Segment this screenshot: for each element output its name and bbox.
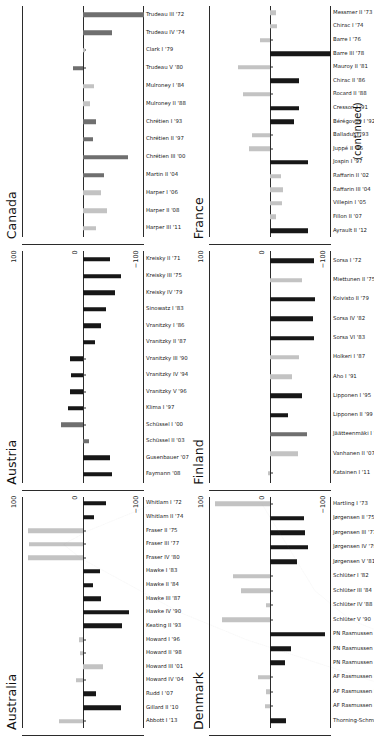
- category-label: Barre III '78: [333, 47, 374, 61]
- category-label: Raffarin III '04: [333, 183, 374, 197]
- category-label: Lipponen I '95: [333, 386, 374, 405]
- value-axis-tick-label: 0: [71, 493, 79, 500]
- category-label-text: Kreisky II '71: [146, 257, 180, 262]
- bar: [83, 173, 104, 178]
- bar-slot: [22, 367, 144, 384]
- category-label: PN Rasmussen IV '98: [333, 656, 374, 670]
- bar-slot: [209, 183, 331, 197]
- category-tick: [83, 424, 86, 425]
- figure-rotator: Australia−1000100Abbott I '13Gillard II …: [0, 0, 374, 736]
- bar-slot: [209, 169, 331, 183]
- bar-slot: [209, 6, 331, 20]
- plot-area: [209, 6, 331, 237]
- category-label-text: Jørgensen IV '79: [333, 545, 374, 550]
- value-axis-tick-label: 100: [197, 493, 205, 508]
- category-label: Jørgensen V '81: [333, 555, 374, 569]
- category-label-text: Hawke IV '90: [146, 610, 181, 615]
- category-label: Sorsa VI '83: [333, 328, 374, 347]
- bar-slot: [209, 497, 331, 511]
- bar-slot: [22, 701, 144, 715]
- bar-slot: [209, 699, 331, 713]
- category-label-text: Villepin I '05: [333, 201, 366, 206]
- bar: [83, 472, 112, 477]
- category-label-text: PN Rasmussen I '93: [333, 631, 374, 636]
- category-label-text: Schlüter I '82: [333, 574, 369, 579]
- category-tick: [83, 68, 86, 69]
- bar: [83, 624, 122, 629]
- category-label: Thorning-Schmidt I '11: [333, 714, 374, 728]
- bar-slot: [22, 433, 144, 450]
- bar: [258, 675, 270, 680]
- bar-slot: [22, 537, 144, 551]
- bar: [270, 278, 302, 283]
- category-label-text: Lipponen II '99: [333, 412, 373, 417]
- bar: [83, 596, 101, 601]
- bar: [270, 119, 294, 124]
- bar-slot: [22, 660, 144, 674]
- bar: [83, 257, 110, 262]
- bar: [83, 290, 115, 295]
- bar-slot: [209, 583, 331, 597]
- category-label: AF Rasmussen I '01: [333, 670, 374, 684]
- bar-slot: [22, 301, 144, 318]
- category-label-text: Sorsa IV '82: [333, 316, 365, 321]
- bar: [83, 84, 94, 89]
- category-label: AF Rasmussen II '05: [333, 685, 374, 699]
- bar-slot: [209, 425, 331, 444]
- category-label-text: Fillon II '07: [333, 214, 362, 219]
- bar: [270, 228, 308, 233]
- category-label-text: Raffarin III '04: [333, 187, 371, 192]
- category-label-text: Jäätteenmäki I '03: [333, 432, 374, 437]
- bar: [215, 502, 270, 507]
- bar: [270, 661, 285, 666]
- category-tick: [270, 605, 273, 606]
- bar: [270, 355, 299, 360]
- value-axis-tick-label: 0: [258, 493, 266, 500]
- bar-slot: [22, 42, 144, 60]
- bar: [266, 690, 270, 695]
- bar-slot: [22, 383, 144, 400]
- bar: [70, 390, 83, 395]
- category-label-text: Sorsa VI '83: [333, 335, 365, 340]
- category-label: Sorsa I '72: [333, 251, 374, 270]
- category-label: Mauroy II '81: [333, 60, 374, 74]
- bar: [270, 531, 305, 536]
- panel-australia: Australia−1000100Abbott I '13Gillard II …: [0, 491, 187, 736]
- category-label-text: Chrétien II '97: [146, 137, 184, 142]
- category-label: Messmer II '73: [333, 6, 374, 20]
- bar-slot: [22, 95, 144, 113]
- bar: [83, 48, 85, 53]
- category-label-text: Hawke III '87: [146, 596, 181, 601]
- category-label-text: Hawke II '84: [146, 582, 179, 587]
- bar-slot: [22, 113, 144, 131]
- category-tick: [270, 135, 273, 136]
- category-labels: Thorning-Schmidt I '11AF Rasmussen III '…: [333, 497, 374, 728]
- bar-slot: [209, 367, 331, 386]
- category-label-text: Fraser II '75: [146, 528, 178, 533]
- bar-slot: [22, 59, 144, 77]
- bar: [83, 13, 144, 18]
- bar-slot: [209, 60, 331, 74]
- category-label-text: Chrétien I '93: [146, 119, 182, 124]
- bar-slot: [209, 290, 331, 309]
- bar: [83, 323, 101, 328]
- category-label-text: PN Rasmussen III '94: [333, 646, 374, 651]
- category-label: Chirac II '86: [333, 74, 374, 88]
- category-tick: [83, 358, 86, 359]
- panel-title: Austria: [4, 440, 19, 485]
- bar-series: [22, 6, 144, 237]
- panel-title: France: [191, 197, 206, 239]
- bar-slot: [22, 77, 144, 95]
- bar: [222, 617, 270, 622]
- bar-slot: [22, 202, 144, 220]
- category-label-text: Trudeau III '72: [146, 12, 184, 17]
- bar: [83, 610, 129, 615]
- bar-slot: [209, 142, 331, 156]
- plot-area: [22, 6, 144, 237]
- bar-slot: [209, 328, 331, 347]
- category-tick: [270, 590, 273, 591]
- bar: [270, 545, 308, 550]
- category-label: Lipponen II '99: [333, 406, 374, 425]
- bar-slot: [209, 670, 331, 684]
- bar: [238, 65, 270, 70]
